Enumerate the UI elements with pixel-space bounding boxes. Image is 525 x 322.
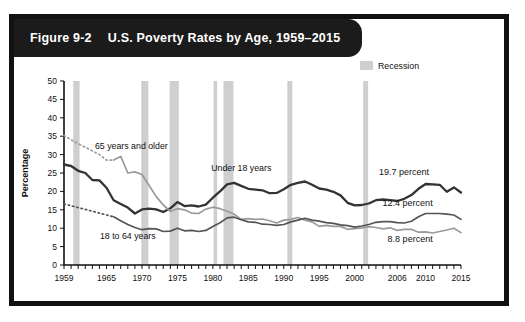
x-tick-label: 1975 [168, 273, 187, 283]
y-tick-label: 50 [48, 76, 58, 86]
recession-band [170, 81, 179, 265]
x-tick-label: 2000 [345, 273, 364, 283]
figure-number: Figure 9-2 [30, 31, 92, 45]
recession-band [73, 81, 79, 265]
y-tick-label: 15 [48, 205, 58, 215]
y-tick-label: 20 [48, 186, 58, 196]
y-tick-label: 0 [52, 260, 57, 270]
series-end-label: 12.4 percent [383, 198, 434, 208]
series-end-label: 19.7 percent [379, 167, 430, 177]
figure-title-bar: Figure 9-2 U.S. Poverty Rates by Age, 19… [14, 19, 362, 57]
y-axis-label: Percentage [20, 149, 30, 198]
figure-container: Figure 9-2 U.S. Poverty Rates by Age, 19… [9, 14, 509, 306]
figure-title: U.S. Poverty Rates by Age, 1959–2015 [108, 31, 341, 45]
y-tick-label: 30 [48, 150, 58, 160]
x-tick-label: 1970 [133, 273, 152, 283]
y-tick-label: 25 [48, 168, 58, 178]
series-name-label: 65 years and older [95, 141, 168, 151]
y-tick-label: 10 [48, 223, 58, 233]
x-tick-label: 1980 [203, 273, 222, 283]
x-tick-label: 1985 [239, 273, 258, 283]
y-tick-label: 5 [52, 242, 57, 252]
y-tick-label: 35 [48, 131, 58, 141]
series-end-label: 8.8 percent [388, 234, 434, 244]
legend-label-recession: Recession [378, 61, 419, 71]
x-tick-label: 2006 [388, 273, 407, 283]
x-tick-label: 1990 [274, 273, 293, 283]
poverty-rates-line-chart: 0510152025303540455019591965197019751980… [14, 57, 504, 303]
x-tick-label: 1965 [97, 273, 116, 283]
legend-swatch-recession [360, 61, 373, 70]
x-tick-label: 2010 [416, 273, 435, 283]
recession-band [363, 81, 368, 265]
y-tick-label: 45 [48, 94, 58, 104]
x-tick-label: 1959 [55, 273, 74, 283]
series-name-label: Under 18 years [211, 163, 272, 173]
series-line-dotted [64, 204, 114, 217]
x-tick-label: 1995 [310, 273, 329, 283]
chart-legend: Recession [360, 61, 419, 71]
x-tick-label: 2015 [452, 273, 471, 283]
chart-axes: 0510152025303540455019591965197019751980… [20, 76, 471, 283]
y-tick-label: 40 [48, 113, 58, 123]
recession-band [287, 81, 292, 265]
series-name-label: 18 to 64 years [100, 231, 156, 241]
chart-plot-area: 0510152025303540455019591965197019751980… [14, 57, 504, 301]
